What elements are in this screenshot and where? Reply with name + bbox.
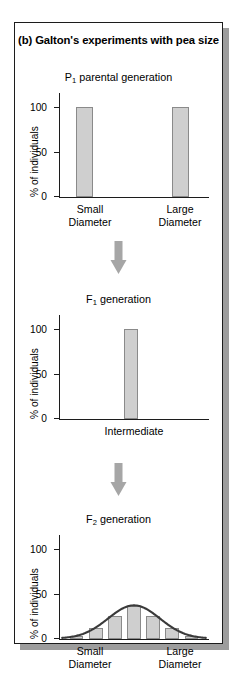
p1-tick-100: 100 [54, 107, 60, 108]
p1-tick-label-0: 0 [41, 191, 47, 202]
chart-f2: % of individuals 100 50 0 [15, 535, 224, 643]
f1-xcat-intermediate: Intermediate [59, 425, 209, 438]
f1-y-axis-label: % of individuals [29, 348, 40, 419]
bar-p1-large [172, 107, 189, 197]
p1-generation-label: P1 parental generation [15, 71, 222, 83]
p1-plot-area: 100 50 0 [59, 93, 209, 198]
arrow-p1-to-f1 [110, 241, 127, 275]
p1-y-axis-label: % of individuals [29, 126, 40, 197]
f2-xcat-large: Large Diameter [149, 645, 211, 670]
f2-generation-label: F2 generation [15, 513, 222, 525]
f2-normal-distribution-curve [59, 535, 209, 640]
figure-title-text: (b) Galton's experiments with pea size [18, 34, 219, 46]
figure-title: (b) Galton's experiments with pea size [15, 33, 222, 47]
f1-tick-0: 0 [54, 418, 60, 419]
f1-tick-50: 50 [54, 374, 60, 375]
arrow-f1-to-f2 [110, 463, 127, 497]
p1-tick-label-50: 50 [36, 147, 47, 158]
f1-generation-label: F1 generation [15, 293, 222, 305]
p1-xcat-small: Small Diameter [59, 203, 121, 228]
f1-x-axis [59, 419, 209, 420]
f1-y-axis [59, 315, 60, 420]
chart-p1: % of individuals 100 50 0 [15, 93, 224, 201]
f2-tick-label-100: 100 [30, 544, 47, 555]
p1-tick-label-100: 100 [30, 102, 47, 113]
bar-p1-small [76, 107, 93, 197]
f2-xcat-small: Small Diameter [59, 645, 121, 670]
p1-tick-0: 0 [54, 196, 60, 197]
f1-tick-label-50: 50 [36, 369, 47, 380]
f2-plot-area: 100 50 0 [59, 535, 209, 640]
f2-y-axis-label: % of individuals [29, 568, 40, 639]
p1-xcat-large: Large Diameter [149, 203, 211, 228]
p1-x-axis [59, 197, 209, 198]
f1-plot-area: 100 50 0 [59, 315, 209, 420]
bar-f1-intermediate [124, 329, 138, 419]
galton-pea-size-figure: (b) Galton's experiments with pea size P… [0, 0, 233, 677]
p1-tick-50: 50 [54, 152, 60, 153]
p1-y-axis [59, 93, 60, 198]
f1-tick-label-100: 100 [30, 324, 47, 335]
figure-panel: (b) Galton's experiments with pea size P… [14, 22, 223, 644]
f2-tick-label-50: 50 [36, 589, 47, 600]
f1-tick-100: 100 [54, 329, 60, 330]
f1-tick-label-0: 0 [41, 413, 47, 424]
f2-tick-label-0: 0 [41, 633, 47, 644]
chart-f1: % of individuals 100 50 0 Intermedia [15, 315, 224, 423]
